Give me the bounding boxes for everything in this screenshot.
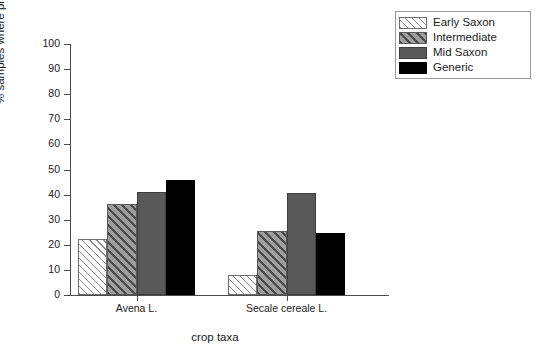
y-axis-tick-label: 80 [0,88,60,99]
legend-label: Intermediate [433,32,497,44]
y-axis-tick-label: 50 [0,164,60,175]
legend-entry: Early Saxon [399,15,526,30]
bar [228,275,257,295]
y-axis-tick-label: 100 [0,38,60,49]
x-axis-line [70,295,389,296]
y-axis-title: % samples where present [0,0,6,104]
legend-entry: Mid Saxon [399,45,526,60]
legend-label: Mid Saxon [433,47,487,59]
bar [257,231,286,295]
legend-label: Generic [433,62,473,74]
legend-swatch [399,17,427,29]
legend-swatch [399,47,427,59]
plot-area [70,44,388,295]
legend-swatch [399,62,427,74]
legend-entry: Generic [399,60,526,75]
legend-label: Early Saxon [433,17,495,29]
x-axis-title: crop taxa [0,331,430,343]
x-axis-tick [287,295,288,301]
bar [78,239,107,295]
bar-chart-figure: 0102030405060708090100 Avena L.Secale ce… [0,0,537,357]
y-axis-tick-label: 0 [0,289,60,300]
y-axis-tick-label: 30 [0,214,60,225]
y-axis-tick-label: 90 [0,63,60,74]
bar [316,233,345,295]
y-axis-tick-label: 20 [0,239,60,250]
x-axis-category-label: Avena L. [116,303,157,314]
bar [166,180,195,295]
y-axis-tick-label: 60 [0,138,60,149]
legend-entry: Intermediate [399,30,526,45]
x-axis-tick [137,295,138,301]
bar [137,192,166,295]
y-axis-tick-label: 10 [0,264,60,275]
bar [107,204,136,295]
chart-legend: Early SaxonIntermediateMid SaxonGeneric [395,11,531,79]
y-axis-tick-label: 40 [0,189,60,200]
y-axis-tick-label: 70 [0,113,60,124]
y-axis-tick [64,295,70,296]
legend-swatch [399,32,427,44]
bar [287,193,316,295]
x-axis-category-label: Secale cereale L. [246,303,327,314]
